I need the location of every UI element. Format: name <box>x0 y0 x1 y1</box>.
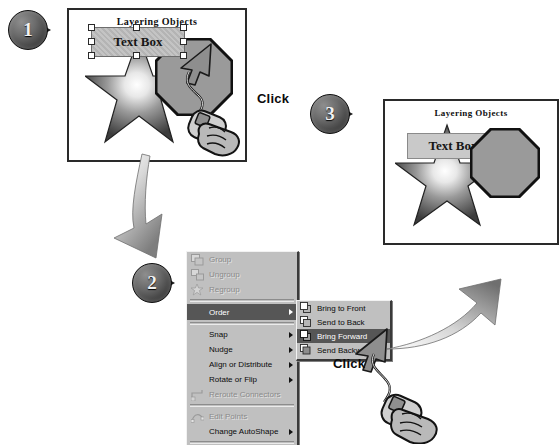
resize-handle-w[interactable] <box>88 38 95 45</box>
transition-arrow-1-to-2 <box>100 152 210 262</box>
menu-item-reroute-connectors-label: Reroute Connectors <box>209 390 281 399</box>
menu-item-nudge-label: Nudge <box>209 345 233 354</box>
menu-item-regroup[interactable]: Regroup <box>187 282 297 297</box>
chevron-right-icon <box>289 429 293 435</box>
chevron-right-icon <box>289 347 293 353</box>
menu-item-rotate-or-flip[interactable]: Rotate or Flip <box>187 372 297 387</box>
click-label-2: Click <box>333 356 365 371</box>
submenu-item-bring-to-front-label: Bring to Front <box>317 304 365 313</box>
menu-item-ungroup-label: Ungroup <box>209 270 240 279</box>
send-to-back-icon <box>300 316 313 328</box>
step-badge-1: 1 <box>8 10 48 50</box>
menu-item-change-autoshape[interactable]: Change AutoShape <box>187 424 297 439</box>
click-label-1: Click <box>257 91 289 106</box>
menu-item-order[interactable]: Order <box>187 304 297 320</box>
resize-handle-ne[interactable] <box>180 24 187 31</box>
resize-handle-n[interactable] <box>133 24 140 31</box>
submenu-item-bring-to-front[interactable]: Bring to Front <box>297 301 390 315</box>
slide-panel-1: Layering Objects <box>67 8 247 162</box>
octagon-shape-panel3[interactable] <box>470 128 540 198</box>
menu-item-reroute-connectors[interactable]: Reroute Connectors <box>187 387 297 402</box>
menu-item-align-or-distribute[interactable]: Align or Distribute <box>187 357 297 372</box>
menu-separator <box>190 404 294 407</box>
panel1-title: Layering Objects <box>69 16 245 27</box>
send-backward-icon <box>300 344 313 356</box>
editpoints-icon <box>191 411 204 423</box>
step-badge-2: 2 <box>132 263 172 303</box>
resize-handle-nw[interactable] <box>88 24 95 31</box>
figure-canvas: 1 Layering Objects <box>0 0 559 445</box>
menu-item-ungroup[interactable]: Ungroup <box>187 267 297 282</box>
chevron-right-icon <box>289 362 293 368</box>
menu-separator <box>190 322 294 325</box>
menu-item-change-autoshape-label: Change AutoShape <box>209 427 278 436</box>
submenu-item-send-to-back-label: Send to Back <box>317 318 365 327</box>
menu-item-edit-points-label: Edit Points <box>209 412 247 421</box>
badge-number-2: 2 <box>132 263 172 303</box>
menu-item-snap[interactable]: Snap <box>187 327 297 342</box>
context-menu[interactable]: Group Ungroup Regroup Order <box>186 251 299 445</box>
badge-number-3: 3 <box>310 94 350 134</box>
bring-forward-icon <box>300 330 313 342</box>
menu-item-rotate-or-flip-label: Rotate or Flip <box>209 375 257 384</box>
reroute-icon <box>191 389 204 401</box>
badge-number-1: 1 <box>8 10 48 50</box>
menu-item-group-label: Group <box>209 255 231 264</box>
panel3-title: Layering Objects <box>385 108 557 118</box>
hand-with-mouse-icon-menu <box>368 352 448 444</box>
step-badge-3: 3 <box>310 94 350 134</box>
text-box-label-panel1: Text Box <box>92 34 184 50</box>
menu-item-align-or-distribute-label: Align or Distribute <box>209 360 272 369</box>
menu-item-group[interactable]: Group <box>187 252 297 267</box>
hand-with-mouse-icon-panel1 <box>179 70 247 158</box>
chevron-right-icon <box>289 332 293 338</box>
menu-separator <box>190 441 294 444</box>
menu-item-order-label: Order <box>209 308 229 317</box>
group-icon <box>191 254 204 266</box>
menu-item-nudge[interactable]: Nudge <box>187 342 297 357</box>
resize-handle-s[interactable] <box>133 52 140 59</box>
menu-item-regroup-label: Regroup <box>209 285 240 294</box>
chevron-right-icon <box>289 309 293 315</box>
resize-handle-sw[interactable] <box>88 52 95 59</box>
ungroup-icon <box>191 269 204 281</box>
menu-item-snap-label: Snap <box>209 330 228 339</box>
bring-to-front-icon <box>300 302 313 314</box>
chevron-right-icon <box>289 377 293 383</box>
transition-arrow-2-to-3 <box>385 245 509 353</box>
menu-item-edit-points[interactable]: Edit Points <box>187 409 297 424</box>
menu-separator <box>190 299 294 302</box>
slide-panel-3: Layering Objects Text Box <box>383 99 559 245</box>
regroup-icon <box>191 284 204 296</box>
